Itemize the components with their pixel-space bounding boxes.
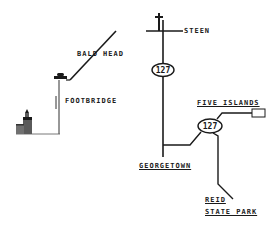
road-map: 127 127 <box>0 0 279 226</box>
lighthouse-icon <box>16 109 32 134</box>
route-number: 127 <box>156 66 171 75</box>
steen-label: STEEN <box>184 27 210 35</box>
route-127-shield-lower: 127 <box>198 119 222 133</box>
reid-label: REID <box>205 196 226 204</box>
route-number: 127 <box>203 122 218 131</box>
church-cross-icon <box>155 13 163 31</box>
destination-box-icon <box>252 109 265 117</box>
five-islands-label: FIVE ISLANDS <box>197 99 260 107</box>
bald-head-label: BALD HEAD <box>77 50 124 58</box>
footbridge-label: FOOTBRIDGE <box>65 97 117 105</box>
car-icon <box>54 73 67 79</box>
five-islands-road <box>217 113 252 119</box>
state-park-label: STATE PARK <box>205 208 257 216</box>
georgetown-label: GEORGETOWN <box>139 162 191 170</box>
reid-state-park-road <box>213 133 233 199</box>
route-127-shield-upper: 127 <box>152 64 174 77</box>
georgetown-connector-road <box>163 132 201 145</box>
